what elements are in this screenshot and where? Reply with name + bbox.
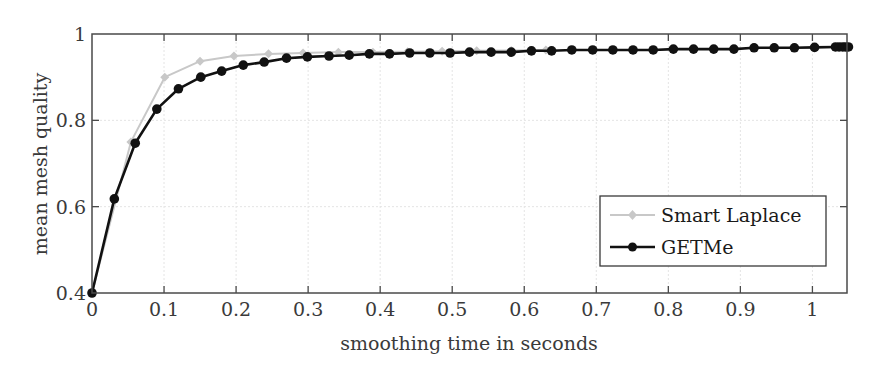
circle-marker-icon (324, 51, 334, 61)
circle-marker-icon (486, 47, 496, 57)
circle-marker-icon (445, 48, 455, 58)
legend-label-smart-laplace: Smart Laplace (661, 204, 802, 226)
circle-marker-icon (588, 45, 598, 55)
y-tick-label: 0.8 (56, 109, 86, 131)
series-line-smart-laplace (92, 50, 546, 293)
legend-label-getme: GETMe (661, 236, 733, 258)
tick-labels: 00.10.20.30.40.50.60.70.80.910.40.60.81 (56, 23, 819, 320)
circle-marker-icon (282, 53, 292, 63)
circle-marker-icon (385, 49, 395, 59)
x-tick-label: 0.4 (365, 298, 395, 320)
x-tick-label: 0 (86, 298, 98, 320)
circle-marker-icon (628, 45, 638, 55)
y-tick-label: 1 (74, 23, 86, 45)
circle-marker-icon (547, 46, 557, 56)
circle-marker-icon (110, 194, 120, 204)
line-chart: 00.10.20.30.40.50.60.70.80.910.40.60.81 … (0, 0, 872, 365)
circle-marker-icon (567, 45, 577, 55)
x-tick-label: 0.6 (509, 298, 539, 320)
circle-marker-icon (844, 42, 854, 52)
diamond-marker-icon (229, 52, 238, 61)
circle-marker-icon (196, 72, 206, 82)
y-axis-label: mean mesh quality (29, 73, 51, 256)
x-tick-label: 0.8 (653, 298, 683, 320)
diamond-marker-icon (264, 49, 273, 58)
y-tick-label: 0.6 (56, 196, 86, 218)
circle-marker-icon (669, 44, 679, 54)
x-tick-label: 0.3 (293, 298, 323, 320)
diamond-marker-icon (160, 73, 169, 82)
circle-marker-icon (506, 47, 516, 57)
y-tick-label: 0.4 (56, 282, 86, 304)
circle-marker-icon (425, 48, 435, 58)
circle-marker-icon (729, 44, 739, 54)
circle-marker-icon (405, 48, 415, 58)
circle-marker-icon (749, 43, 759, 53)
circle-marker-icon (174, 84, 184, 94)
circle-marker-icon (303, 52, 313, 62)
x-tick-label: 0.7 (581, 298, 611, 320)
circle-marker-icon (608, 45, 618, 55)
circle-marker-icon (689, 44, 699, 54)
circle-marker-icon (709, 44, 719, 54)
circle-marker-icon (790, 43, 800, 53)
circle-marker-icon (769, 43, 779, 53)
circle-marker-icon (648, 45, 658, 55)
diamond-marker-icon (438, 47, 447, 56)
legend: Smart Laplace GETMe (600, 196, 826, 266)
circle-marker-icon (217, 66, 227, 76)
circle-marker-icon (130, 138, 140, 148)
x-tick-label: 0.1 (149, 298, 179, 320)
circle-marker-icon (810, 43, 820, 53)
circle-marker-icon (365, 49, 375, 59)
circle-marker-icon (465, 47, 475, 57)
diamond-marker-icon (196, 57, 205, 66)
x-tick-label: 0.5 (437, 298, 467, 320)
circle-marker-icon (259, 57, 269, 67)
circle-marker-icon (344, 50, 354, 60)
x-axis-label: smoothing time in seconds (340, 332, 598, 354)
circle-marker-icon (238, 60, 248, 70)
x-tick-label: 0.2 (221, 298, 251, 320)
circle-marker-icon (152, 104, 162, 114)
x-tick-label: 1 (806, 298, 818, 320)
circle-marker-icon (527, 46, 537, 56)
circle-marker-icon (628, 243, 637, 252)
x-tick-label: 0.9 (725, 298, 755, 320)
